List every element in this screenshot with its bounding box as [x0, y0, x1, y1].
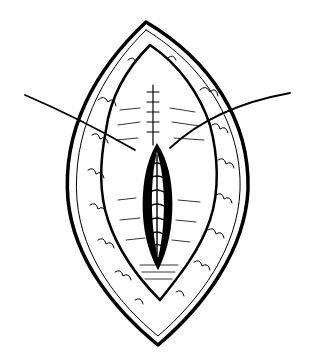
wound-closure-drawing [0, 0, 316, 360]
surgical-illustration [0, 0, 316, 360]
suture-thread-right [170, 93, 290, 148]
upper-suture-line [147, 85, 159, 145]
suture-thread-left [25, 95, 135, 150]
central-sutured-incision [144, 145, 172, 268]
